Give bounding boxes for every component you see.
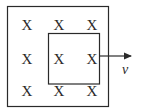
field-mark-x: X — [87, 83, 98, 99]
field-mark-x: X — [22, 51, 33, 67]
field-mark-x: X — [22, 83, 33, 99]
field-mark-x: X — [22, 17, 33, 33]
diagram-canvas: XXXXXXXXX v — [0, 0, 141, 112]
field-mark-x: X — [54, 51, 65, 67]
field-mark-x: X — [87, 17, 98, 33]
field-mark-x: X — [87, 51, 98, 67]
field-mark-x: X — [54, 83, 65, 99]
field-mark-x: X — [54, 17, 65, 33]
magnetic-field-marks: XXXXXXXXX — [22, 17, 98, 99]
velocity-label: v — [122, 62, 129, 77]
